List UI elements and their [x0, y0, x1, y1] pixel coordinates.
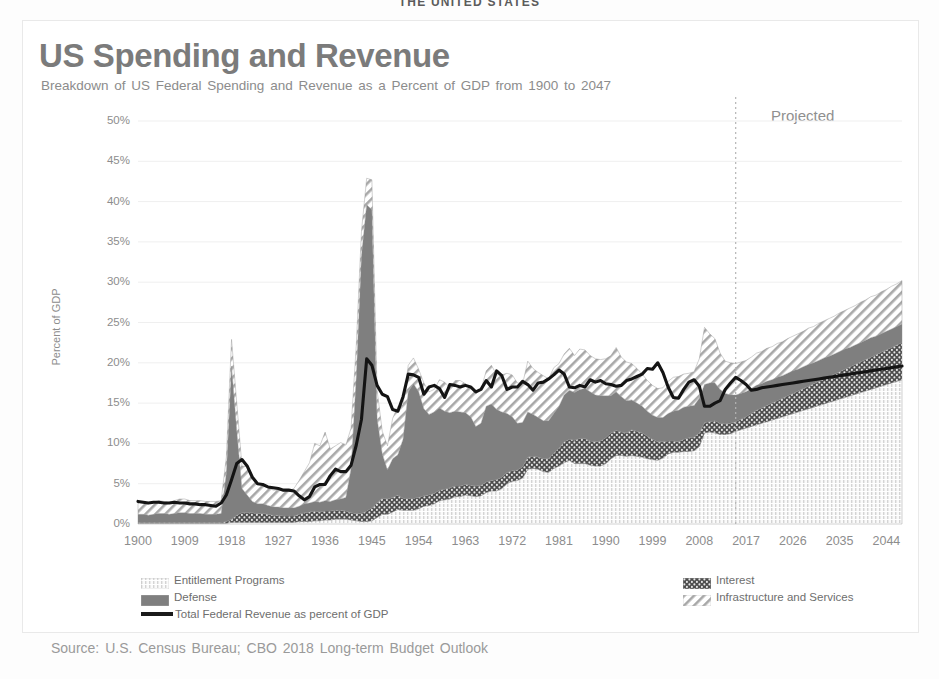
chart-legend: Entitlement ProgramsInterestDefenseInfra…	[23, 574, 920, 626]
source-note: Source: U.S. Census Bureau; CBO 2018 Lon…	[51, 640, 488, 656]
legend-item[interactable]: Infrastructure and Services	[683, 591, 853, 603]
legend-item[interactable]: Entitlement Programs	[141, 574, 285, 586]
chart-plot-area	[23, 21, 920, 581]
legend-label: Interest	[716, 574, 754, 586]
legend-swatch-line-icon	[141, 612, 173, 616]
legend-swatch-diagonal-hatch-icon	[683, 592, 711, 603]
chart-card: US Spending and Revenue Breakdown of US …	[22, 20, 919, 633]
legend-swatch-checker-dark-icon	[683, 575, 711, 586]
legend-label: Infrastructure and Services	[716, 591, 853, 603]
legend-item[interactable]: Total Federal Revenue as percent of GDP	[141, 608, 389, 620]
legend-swatch-solid-gray-icon	[141, 592, 169, 603]
legend-swatch-dotted-light-icon	[141, 575, 169, 586]
legend-label: Entitlement Programs	[174, 574, 285, 586]
stacked-areas	[138, 178, 902, 524]
legend-item[interactable]: Defense	[141, 591, 217, 603]
page-header-clipped: THE UNITED STATES	[0, 0, 939, 7]
legend-label: Total Federal Revenue as percent of GDP	[175, 608, 389, 620]
chart-page: THE UNITED STATES US Spending and Revenu…	[0, 0, 939, 679]
legend-label: Defense	[174, 591, 217, 603]
legend-item[interactable]: Interest	[683, 574, 754, 586]
